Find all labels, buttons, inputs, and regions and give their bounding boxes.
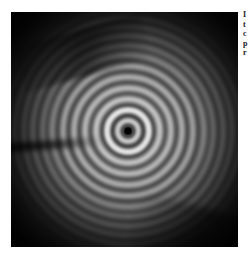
- page-canvas: I t c p r: [0, 0, 252, 262]
- central-dark-core: [124, 127, 132, 135]
- caption-line: r: [243, 48, 252, 58]
- caption-line: I: [243, 10, 252, 20]
- truncated-caption-text: I t c p r: [243, 10, 252, 58]
- caption-line: t: [243, 20, 252, 30]
- interference-figure-panel: [11, 12, 238, 247]
- caption-line: p: [243, 39, 252, 49]
- caption-line: c: [243, 29, 252, 39]
